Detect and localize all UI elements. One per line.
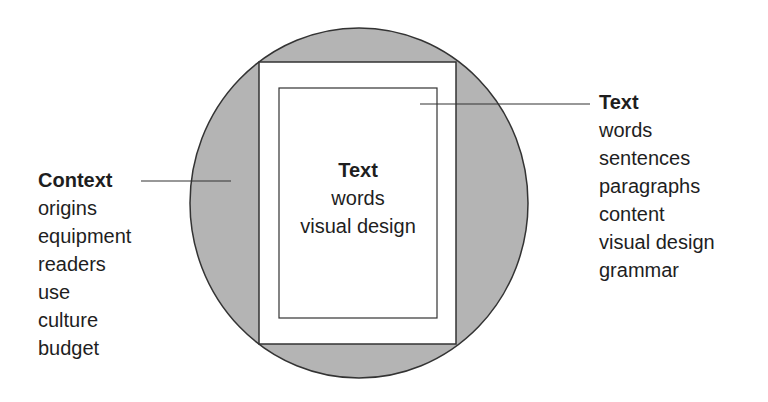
context-item: budget [38,334,131,362]
text-item: grammar [599,256,715,284]
context-item: culture [38,306,131,334]
text-item: sentences [599,144,715,172]
center-text-label: Text words visual design [279,156,437,240]
center-title: Text [279,156,437,184]
context-title: Context [38,166,131,194]
text-item: content [599,200,715,228]
context-item: use [38,278,131,306]
center-item: words [279,184,437,212]
text-item: paragraphs [599,172,715,200]
context-item: readers [38,250,131,278]
text-item: words [599,116,715,144]
center-item: visual design [279,212,437,240]
context-label-block: Context origins equipment readers use cu… [38,166,131,362]
text-label-block: Text words sentences paragraphs content … [599,88,715,284]
text-title: Text [599,88,715,116]
context-item: equipment [38,222,131,250]
text-item: visual design [599,228,715,256]
context-item: origins [38,194,131,222]
